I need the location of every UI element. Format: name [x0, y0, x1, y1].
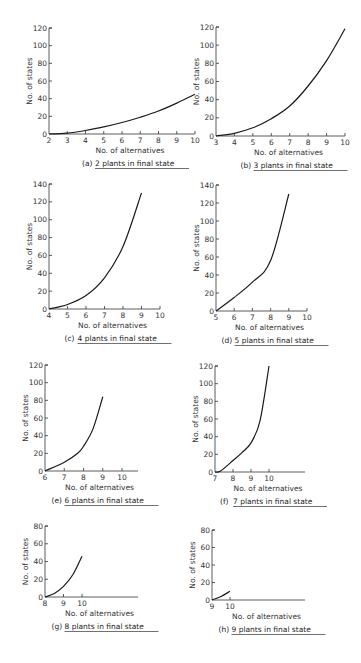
caption-letter: (e)	[52, 496, 63, 505]
x-tick-label: 10	[302, 313, 312, 322]
x-axis-title: No. of alternatives	[96, 146, 165, 155]
y-tick-label: 80	[200, 526, 210, 535]
y-axis-title: No. of states	[25, 223, 34, 270]
x-axis-title: No. of alternatives	[235, 323, 304, 332]
x-axis-title: No. of alternatives	[254, 148, 323, 157]
y-axis-title: No. of states	[25, 57, 34, 104]
x-tick-label: 8	[156, 136, 161, 145]
axes-g	[45, 526, 138, 597]
panel-e: 020406080100120678910No. of statesNo. of…	[21, 361, 159, 506]
data-curve-a	[49, 94, 195, 134]
x-tick-label: 10	[225, 602, 235, 611]
y-axis-title: No. of states	[21, 394, 30, 441]
y-tick-label: 40	[37, 94, 47, 103]
axes-c	[49, 184, 160, 309]
y-axis-title: No. of states	[188, 541, 197, 588]
x-tick-label: 3	[65, 136, 70, 145]
y-tick-label: 80	[37, 59, 47, 68]
x-axis-title: No. of alternatives	[78, 321, 147, 330]
x-tick-label: 8	[306, 138, 311, 147]
y-tick-label: 40	[203, 432, 213, 441]
y-tick-label: 60	[37, 77, 47, 86]
x-tick-label: 7	[287, 138, 292, 147]
caption-letter: (f)	[220, 497, 229, 506]
x-tick-label: 9	[100, 473, 105, 482]
x-tick-label: 6	[232, 313, 237, 322]
x-tick-label: 9	[249, 474, 254, 483]
y-tick-label: 60	[33, 414, 43, 423]
y-tick-label: 140	[200, 181, 215, 190]
y-tick-label: 100	[200, 41, 215, 50]
x-tick-label: 2	[47, 136, 52, 145]
y-tick-label: 20	[37, 112, 47, 121]
y-tick-label: 80	[33, 396, 43, 405]
y-tick-label: 80	[204, 235, 214, 244]
x-tick-label: 5	[65, 311, 70, 320]
caption-text: 9 plants in final state	[232, 625, 312, 634]
y-tick-label: 60	[204, 253, 214, 262]
x-tick-label: 10	[117, 473, 127, 482]
x-tick-label: 4	[232, 138, 237, 147]
caption-letter: (d)	[222, 336, 233, 345]
y-axis-title: No. of states	[191, 395, 200, 442]
data-curve-f	[215, 366, 269, 472]
y-tick-label: 40	[200, 561, 210, 570]
x-tick-label: 5	[101, 136, 106, 145]
y-tick-label: 120	[33, 197, 48, 206]
x-tick-label: 8	[231, 474, 236, 483]
x-tick-label: 9	[174, 136, 179, 145]
y-tick-label: 100	[200, 217, 215, 226]
panel-d: 0204060801001201405678910No. of statesNo…	[192, 181, 329, 346]
figure: 0204060801001202345678910No. of statesNo…	[0, 0, 361, 663]
data-curve-h	[212, 591, 230, 600]
x-tick-label: 5	[214, 313, 219, 322]
caption-letter: (g)	[52, 622, 63, 631]
x-axis-title: No. of alternatives	[65, 483, 134, 492]
x-tick-label: 9	[324, 138, 329, 147]
y-tick-label: 20	[200, 578, 210, 587]
caption-text: 8 plants in final state	[65, 622, 145, 631]
caption-text: 2 plants in final state	[95, 159, 175, 168]
y-tick-label: 20	[203, 450, 213, 459]
y-tick-label: 20	[33, 575, 43, 584]
y-tick-label: 60	[37, 251, 47, 260]
caption-letter: (c)	[65, 334, 75, 343]
x-tick-label: 10	[77, 599, 87, 608]
y-tick-label: 60	[203, 415, 213, 424]
x-tick-label: 3	[214, 138, 219, 147]
caption-text: 3 plants in final state	[254, 161, 334, 170]
y-tick-label: 120	[29, 361, 44, 370]
data-curve-c	[49, 193, 142, 309]
y-tick-label: 20	[204, 289, 214, 298]
x-tick-label: 9	[61, 599, 66, 608]
x-axis-title: No. of alternatives	[234, 484, 303, 493]
y-axis-title: No. of states	[21, 538, 30, 585]
y-tick-label: 20	[37, 287, 47, 296]
x-tick-label: 6	[84, 311, 89, 320]
x-tick-label: 6	[120, 136, 125, 145]
x-tick-label: 8	[121, 311, 126, 320]
y-tick-label: 80	[33, 522, 43, 531]
x-tick-label: 7	[102, 311, 107, 320]
y-tick-label: 60	[33, 539, 43, 548]
caption-letter: (h)	[219, 625, 230, 634]
x-tick-label: 5	[250, 138, 255, 147]
caption-letter: (b)	[241, 161, 252, 170]
x-tick-label: 7	[62, 473, 67, 482]
x-tick-label: 8	[81, 473, 86, 482]
data-curve-g	[45, 556, 82, 597]
x-tick-label: 4	[83, 136, 88, 145]
x-tick-label: 7	[213, 474, 218, 483]
y-tick-label: 140	[33, 180, 48, 189]
y-tick-label: 120	[200, 199, 215, 208]
caption-text: 7 plants in final state	[233, 497, 313, 506]
y-tick-label: 100	[29, 378, 44, 387]
axes-h	[212, 530, 305, 600]
caption-text: 6 plants in final state	[65, 496, 145, 505]
y-tick-label: 100	[33, 215, 48, 224]
x-tick-label: 8	[43, 599, 48, 608]
y-tick-label: 120	[33, 24, 48, 33]
y-tick-label: 40	[204, 95, 214, 104]
x-tick-label: 4	[47, 311, 52, 320]
x-tick-label: 10	[190, 136, 200, 145]
